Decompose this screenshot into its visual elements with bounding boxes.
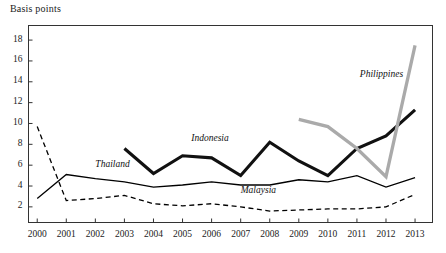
plot-frame: [29, 26, 433, 223]
series-label-thailand: Thailand: [95, 159, 129, 169]
series-label-philippines: Philippines: [360, 69, 403, 79]
chart-container: Basis points 246810121416182000200120022…: [0, 0, 446, 253]
series-line-thailand: [37, 175, 415, 199]
series-label-malaysia: Malaysia: [241, 185, 276, 195]
series-line-philippines: [299, 45, 415, 176]
y-axis-tick-label: 2: [5, 200, 23, 210]
chart-plot-area: [0, 0, 446, 253]
y-axis-tick-label: 6: [5, 159, 23, 169]
y-axis-tick-label: 12: [5, 96, 23, 106]
x-axis-tick-label: 2013: [398, 229, 432, 239]
y-axis-tick-label: 14: [5, 75, 23, 85]
series-line-indonesia: [124, 110, 415, 176]
y-axis-tick-label: 16: [5, 54, 23, 64]
y-axis-tick-label: 4: [5, 180, 23, 190]
y-axis-tick-label: 10: [5, 117, 23, 127]
series-label-indonesia: Indonesia: [191, 133, 228, 143]
y-axis-tick-label: 18: [5, 34, 23, 44]
y-axis-tick-label: 8: [5, 138, 23, 148]
